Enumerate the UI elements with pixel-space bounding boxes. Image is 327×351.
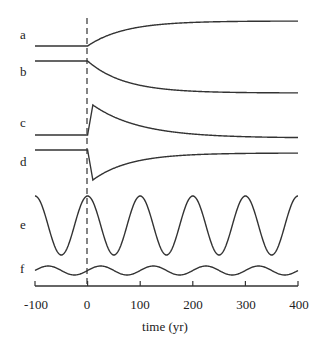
x-axis-label: time (yr) xyxy=(142,319,188,334)
tick-label: 100 xyxy=(130,297,150,312)
curves xyxy=(35,21,298,275)
tick-label: 300 xyxy=(236,297,256,312)
label-f: f xyxy=(20,261,25,276)
curve-e xyxy=(35,196,298,255)
tick-label: 0 xyxy=(84,297,91,312)
label-e: e xyxy=(20,217,26,232)
label-a: a xyxy=(20,27,26,42)
label-c: c xyxy=(20,115,26,130)
label-d: d xyxy=(20,154,27,169)
curve-c xyxy=(35,105,298,138)
chart-canvas: a b c d e f -100 0 100 200 300 400 time … xyxy=(0,0,327,351)
tick-label: 400 xyxy=(289,297,309,312)
figure: a b c d e f -100 0 100 200 300 400 time … xyxy=(0,0,327,351)
x-axis xyxy=(35,281,298,286)
curve-b xyxy=(35,61,298,93)
curve-d xyxy=(35,150,298,180)
curve-a xyxy=(35,21,298,46)
tick-label: -100 xyxy=(24,297,48,312)
label-b: b xyxy=(20,64,27,79)
curve-f xyxy=(35,266,298,275)
tick-label: 200 xyxy=(183,297,203,312)
